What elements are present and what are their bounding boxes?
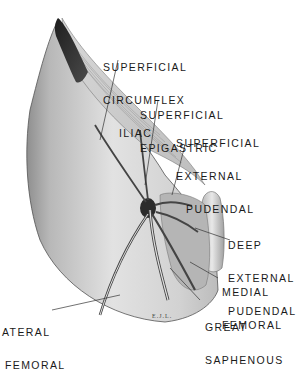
label-superficial-external-pudendal: SUPERFICIAL EXTERNAL PUDENDAL [176,116,260,226]
label-great-saphenous: GREAT SAPHENOUS [205,300,284,373]
label-lateral-femoral: ATERAL FEMORAL [2,305,66,373]
artist-signature: E.J.L. [152,313,172,319]
